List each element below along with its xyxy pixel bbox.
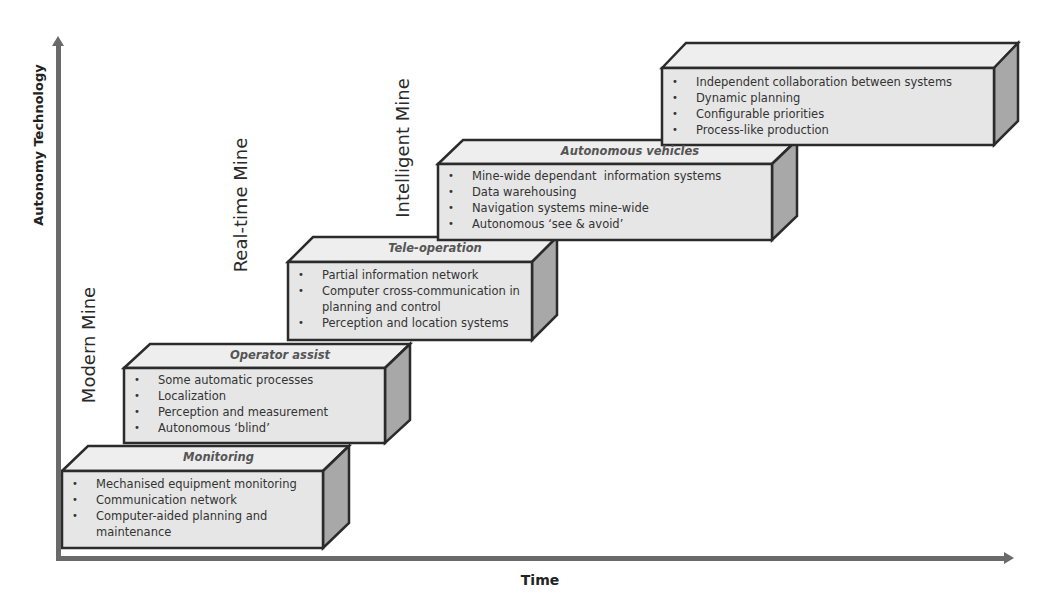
list-item: Localization: [128, 388, 388, 404]
list-item: Perception and measurement: [128, 404, 388, 420]
list-item: Mechanised equipment monitoring: [66, 476, 326, 492]
list-item: Computer cross-communication in planning…: [292, 283, 527, 315]
list-item: Navigation systems mine-wide: [442, 200, 772, 216]
step-items-autonomous-vehicles: Mine-wide dependant information systems …: [442, 168, 772, 232]
list-item: Mine-wide dependant information systems: [442, 168, 772, 184]
x-axis-arrow-icon: [1004, 552, 1014, 564]
stage-label-intelligent-mine: Intelligent Mine: [392, 78, 413, 218]
list-item: Autonomous ‘see & avoid’: [442, 216, 772, 232]
list-item: Some automatic processes: [128, 372, 388, 388]
y-axis-line: [56, 44, 61, 559]
list-item: Perception and location systems: [292, 315, 536, 331]
list-item: Computer-aided planning and maintenance: [66, 508, 296, 540]
list-item: Communication network: [66, 492, 326, 508]
step-items-monitoring: Mechanised equipment monitoring Communic…: [66, 476, 326, 540]
y-axis-label: Autonomy Technology: [31, 64, 46, 225]
x-axis-line: [56, 556, 1006, 561]
x-axis-label: Time: [521, 572, 559, 588]
step-items-tele-operation: Partial information network Computer cro…: [292, 267, 536, 331]
stage-label-modern-mine: Modern Mine: [78, 287, 99, 403]
stage-label-real-time-mine: Real-time Mine: [230, 138, 251, 273]
step-title-autonomous-vehicles: Autonomous vehicles: [463, 144, 797, 158]
step-items-collaboration: Independent collaboration between system…: [666, 74, 996, 138]
step-title-tele-operation: Tele-operation: [313, 241, 557, 255]
list-item: Process-like production: [666, 122, 996, 138]
step-title-operator-assist: Operator assist: [150, 348, 410, 362]
y-axis-arrow-icon: [52, 36, 64, 46]
list-item: Data warehousing: [442, 184, 772, 200]
list-item: Independent collaboration between system…: [666, 74, 996, 90]
list-item: Partial information network: [292, 267, 536, 283]
list-item: Autonomous ‘blind’: [128, 420, 388, 436]
step-title-monitoring: Monitoring: [88, 450, 349, 464]
list-item: Dynamic planning: [666, 90, 996, 106]
step-items-operator-assist: Some automatic processes Localization Pe…: [128, 372, 388, 436]
list-item: Configurable priorities: [666, 106, 996, 122]
